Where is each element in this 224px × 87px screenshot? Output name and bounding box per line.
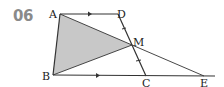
parallel-arrow-ad-icon [88,12,92,17]
label-e: E [200,77,208,87]
label-d: D [117,8,126,21]
label-a: A [48,8,58,21]
label-m: M [133,36,144,49]
shaded-triangle-abm [53,14,132,75]
parallel-arrow-bc-icon [96,73,100,78]
label-c: C [142,77,150,87]
label-b: B [42,70,50,83]
tick-dm-icon [122,28,126,29]
line-bc-extended [53,75,215,76]
trapezoid-diagram: A D M B C E [0,0,224,87]
tick-mc-icon [136,60,141,61]
